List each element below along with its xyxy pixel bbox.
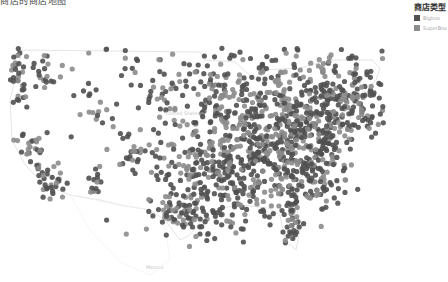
legend-item-bigbox[interactable]: Bigbox bbox=[414, 13, 448, 23]
legend-title: 商店类型 bbox=[414, 1, 448, 12]
legend-swatch-icon bbox=[414, 15, 420, 21]
legend: 商店类型 Bigbox SuperBox bbox=[414, 1, 448, 33]
legend-item-superbox[interactable]: SuperBox bbox=[414, 23, 448, 33]
store-map[interactable] bbox=[0, 0, 448, 282]
map-label-mexico: Mexico bbox=[146, 264, 163, 270]
legend-label: SuperBox bbox=[423, 25, 448, 31]
legend-label: Bigbox bbox=[423, 15, 448, 21]
legend-swatch-icon bbox=[414, 25, 420, 31]
map-label-us: United States bbox=[166, 110, 200, 116]
